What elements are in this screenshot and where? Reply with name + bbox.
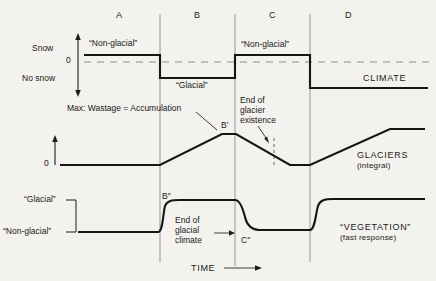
climate-axis-arrow-down <box>75 90 81 97</box>
glaciers-series-label: GLACIERS <box>357 150 408 160</box>
climate-series-label: CLIMATE <box>363 73 406 83</box>
end-glacier-existence-arrowhead <box>264 136 269 143</box>
period-label-b: B <box>194 10 200 20</box>
max-wastage-leader <box>196 112 217 130</box>
vegetation-range-bracket <box>66 200 76 232</box>
point-b-prime-label: B′ <box>221 121 228 131</box>
period-label-c: C <box>269 10 276 20</box>
point-b-dprime-label: B″ <box>162 192 171 202</box>
point-c-dprime-label: C″ <box>241 236 250 246</box>
end-glacial-climate-arrowhead <box>229 230 235 236</box>
end-glacier-existence-line-3: existence <box>240 116 276 126</box>
vegetation-series-sublabel: (fast response) <box>340 233 396 242</box>
period-label-a: A <box>116 10 122 20</box>
glaciers-series-sublabel: (integral) <box>357 161 391 170</box>
climate-axis-arrow-up <box>75 33 81 40</box>
climate-axis-bottom-label: No snow <box>22 74 55 84</box>
time-axis-label: TIME <box>191 263 215 273</box>
end-glacial-climate-line-3: climate <box>175 236 202 246</box>
climate-state-non-glacial-a: “Non-glacial” <box>89 39 137 49</box>
glaciers-axis-zero-label: 0 <box>44 159 49 169</box>
climate-axis-top-label: Snow <box>32 44 53 54</box>
glaciers-axis-arrow-up <box>52 135 58 142</box>
climate-axis-zero-label: 0 <box>66 56 71 66</box>
climate-state-non-glacial-c: “Non-glacial” <box>241 40 289 50</box>
vegetation-series-label: “VEGETATION” <box>340 222 411 232</box>
max-wastage-annotation: Max: Wastage = Accumulation <box>67 104 181 114</box>
period-label-d: D <box>345 10 352 20</box>
vegetation-axis-top-label: “Glacial” <box>24 195 56 205</box>
climate-state-glacial-b: “Glacial” <box>176 81 208 91</box>
time-axis-arrowhead <box>255 265 262 271</box>
vegetation-axis-bottom-label: “Non-glacial” <box>3 227 51 237</box>
paleoclimate-response-diagram: A B C D Snow 0 No snow “Non-glacial” “Gl… <box>0 0 436 281</box>
